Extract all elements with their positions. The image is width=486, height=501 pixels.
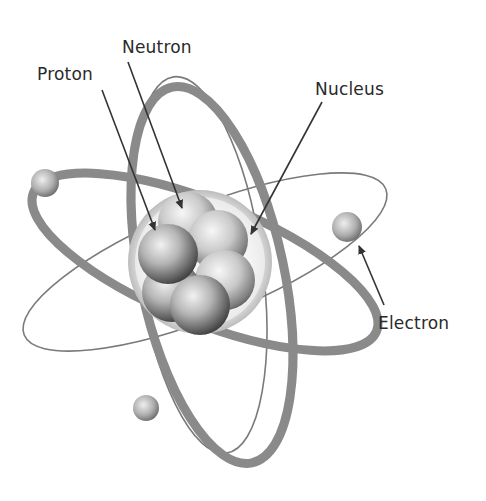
proton-particle [170, 275, 230, 335]
electron-left [31, 169, 59, 197]
proton-label: Proton [37, 64, 93, 84]
neutron-label: Neutron [122, 37, 192, 57]
electron-label: Electron [378, 313, 449, 333]
proton-particle [138, 224, 198, 284]
nucleus-arrow [251, 102, 322, 234]
nucleus-label: Nucleus [315, 79, 384, 99]
nucleus [128, 190, 272, 335]
electron-right [332, 212, 362, 242]
electron-bottom [133, 395, 159, 421]
